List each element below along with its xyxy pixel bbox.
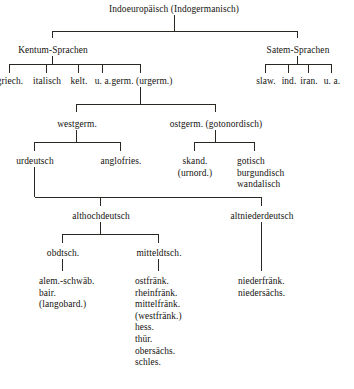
node-germanisch: germ. (urgerm.) bbox=[112, 76, 173, 88]
node-urdeutsch: urdeutsch bbox=[16, 156, 53, 168]
node-griechisch: griech. bbox=[0, 76, 23, 88]
node-gotisch-burgundisch-wandalisch: gotisch burgundisch wandalisch bbox=[237, 156, 284, 191]
leaf-list-mitteldeutsch: ostfränk. rheinfränk. mittelfränk. (west… bbox=[135, 276, 182, 369]
language-family-tree: Indoeuropäisch (Indogermanisch) Kentum-S… bbox=[0, 0, 354, 389]
node-althochdeutsch: althochdeutsch bbox=[72, 211, 130, 223]
node-kentum-sprachen: Kentum-Sprachen bbox=[18, 45, 88, 57]
node-mitteldeutsch: mitteldtsch. bbox=[136, 248, 181, 260]
node-indisch: ind. bbox=[282, 76, 297, 88]
node-slawisch: slaw. bbox=[256, 76, 275, 88]
node-keltisch: kelt. bbox=[71, 76, 88, 88]
leaf-list-altniederdeutsch: niederfränk. niedersächs. bbox=[238, 276, 285, 299]
node-westgermanisch: westgerm. bbox=[57, 119, 97, 131]
node-skandinavisch: skand. (urnord.) bbox=[178, 156, 212, 179]
node-iranisch: iran. bbox=[300, 76, 317, 88]
node-italisch: italisch bbox=[33, 76, 61, 88]
node-altniederdeutsch: altniederdeutsch bbox=[230, 211, 293, 223]
node-oberdeutsch: obdtsch. bbox=[47, 248, 79, 260]
node-indoeuropaeisch: Indoeuropäisch (Indogermanisch) bbox=[109, 4, 239, 16]
node-kentum-ua: u. a. bbox=[95, 76, 111, 88]
node-anglofriesisch: anglofries. bbox=[101, 156, 142, 168]
leaf-list-oberdeutsch: alem.-schwäb. bair. (langobard.) bbox=[39, 276, 94, 311]
node-satem-ua: u. a. bbox=[324, 76, 340, 88]
node-satem-sprachen: Satem-Sprachen bbox=[267, 45, 330, 57]
node-ostgermanisch: ostgerm. (gotonordisch) bbox=[170, 119, 262, 131]
